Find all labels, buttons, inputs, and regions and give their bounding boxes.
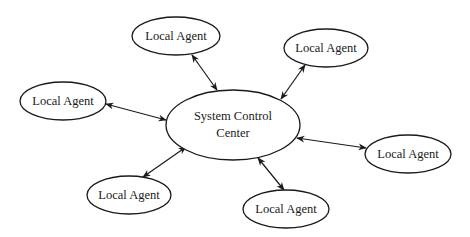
arrow-line xyxy=(192,55,217,90)
bidirectional-arrow xyxy=(106,104,166,120)
arrow-line xyxy=(106,104,166,120)
bidirectional-arrow xyxy=(258,158,284,190)
local-agent-node: Local Agent xyxy=(243,190,329,228)
bidirectional-arrow xyxy=(281,65,305,99)
local-agent-node: Local Agent xyxy=(20,82,106,120)
bidirectional-arrow xyxy=(192,55,217,90)
agent-label: Local Agent xyxy=(145,29,207,43)
agent-label: Local Agent xyxy=(32,94,94,108)
local-agent-node: Local Agent xyxy=(284,29,368,67)
agent-label: Local Agent xyxy=(295,41,357,55)
bidirectional-arrow xyxy=(297,138,366,148)
local-agent-node: Local Agent xyxy=(87,176,171,214)
agent-label: Local Agent xyxy=(377,147,439,161)
arrow-line xyxy=(258,158,284,190)
bidirectional-arrow xyxy=(143,147,186,177)
agent-diagram: System Control Center Local AgentLocal A… xyxy=(0,0,470,237)
center-label-line1: System Control xyxy=(194,109,273,123)
center-label-line2: Center xyxy=(216,126,250,140)
local-agent-node: Local Agent xyxy=(365,135,451,173)
arrow-line xyxy=(297,138,366,148)
agent-label: Local Agent xyxy=(255,202,317,216)
arrow-line xyxy=(143,147,186,177)
arrow-line xyxy=(281,65,305,99)
agent-label: Local Agent xyxy=(98,188,160,202)
system-control-center-node: System Control Center xyxy=(166,90,300,160)
local-agent-node: Local Agent xyxy=(132,17,220,55)
